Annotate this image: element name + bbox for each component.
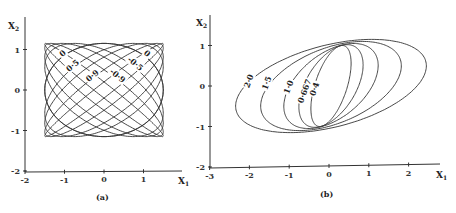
- panel-b-curve-labels: 2·01·51·00·6670·4: [241, 71, 322, 105]
- panel-b: -3-2-1012-2-101 2·01·51·00·6670·4 X2 X1 …: [196, 15, 447, 199]
- panel-a-y-title: X2: [8, 21, 19, 32]
- y-tick-label: 0: [14, 85, 20, 95]
- x-tick-label: -1: [285, 170, 294, 180]
- y-tick-label: -2: [11, 166, 20, 176]
- panel-b-ticks: -3-2-1012-2-101: [196, 41, 411, 182]
- curve-1·5: [261, 41, 402, 130]
- x-tick-label: 0: [326, 169, 332, 179]
- x-tick-label: 2: [406, 168, 412, 178]
- y-tick-label: -2: [196, 162, 205, 172]
- panel-b-y-title: X2: [196, 18, 207, 29]
- curve-label: 0·9: [84, 67, 101, 84]
- y-tick-label: -1: [11, 126, 20, 136]
- y-tick-label: 1: [14, 45, 20, 55]
- x-tick-label: -1: [60, 175, 69, 185]
- x-tick-label: -3: [205, 171, 214, 181]
- panel-a-x-title: X1: [178, 176, 189, 187]
- panel-b-x-title: X1: [436, 170, 447, 181]
- x-tick-label: 1: [141, 174, 147, 184]
- panel-a-label: (a): [96, 192, 109, 202]
- x-tick-label: 0: [101, 174, 107, 184]
- x-tick-label: -2: [245, 170, 254, 180]
- panel-a: -2-101-2-101 00·50·90-0·5-0·9 X2 X1 (a): [8, 17, 189, 202]
- x-tick-label: -2: [21, 175, 30, 185]
- y-tick-label: -1: [196, 122, 205, 132]
- curve-label: 0·5: [64, 57, 81, 74]
- panel-b-label: (b): [320, 189, 333, 199]
- y-tick-label: 0: [199, 81, 205, 91]
- figure: -2-101-2-101 00·50·90-0·5-0·9 X2 X1 (a) …: [0, 0, 456, 213]
- y-tick-label: 1: [199, 41, 205, 51]
- x-tick-label: 1: [366, 168, 372, 178]
- curve-1·0: [284, 44, 378, 129]
